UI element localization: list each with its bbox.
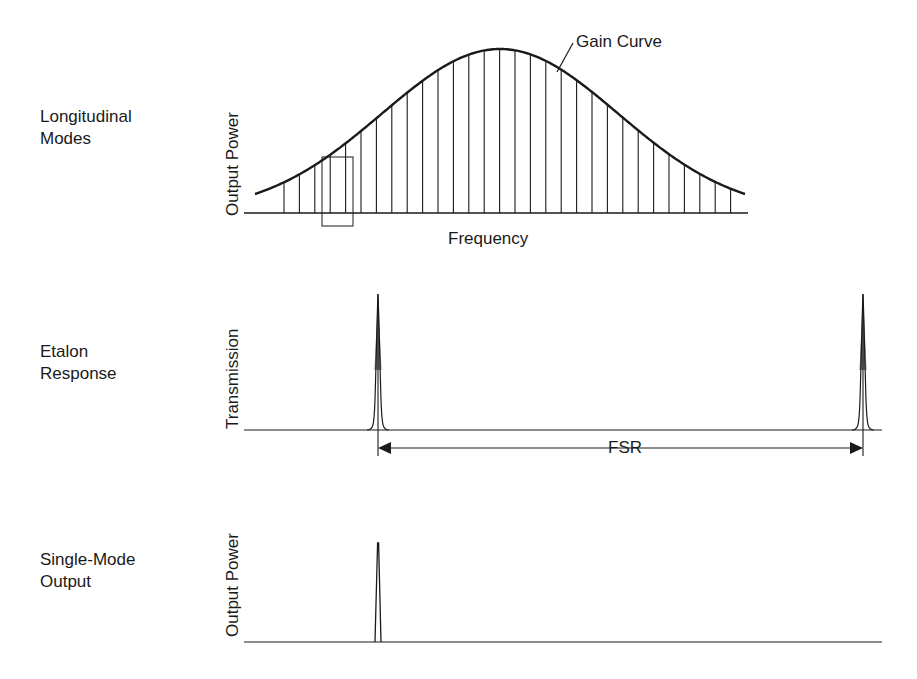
laser-mode-diagram: [0, 0, 917, 679]
gain-curve-leader: [557, 43, 573, 72]
single-mode-output-plot: [244, 543, 882, 642]
longitudinal-modes-plot: [244, 42, 748, 226]
mode-highlight-box: [322, 157, 353, 226]
etalon-response-plot: [244, 294, 882, 456]
fsr-arrowhead-right-icon: [850, 442, 863, 454]
longitudinal-mode-lines: [284, 49, 731, 213]
single-mode-peak: [375, 543, 381, 642]
fsr-arrowhead-left-icon: [378, 442, 391, 454]
